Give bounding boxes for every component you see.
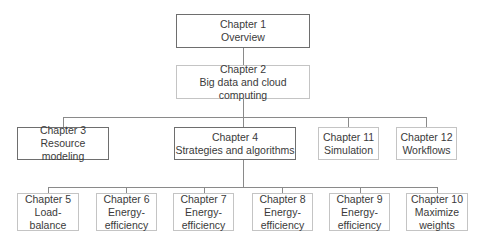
node-chapter-12: Chapter 12 Workflows — [396, 127, 457, 160]
node-chapter-5: Chapter 5 Load- balance — [17, 193, 79, 231]
node-title: Chapter 10 — [411, 193, 463, 206]
node-label-line-1: Energy- — [341, 206, 378, 219]
node-label-line-2: balance — [30, 219, 67, 232]
node-title: Chapter 5 — [25, 193, 71, 206]
node-chapter-6: Chapter 6 Energy- efficiency — [96, 193, 157, 231]
node-title: Chapter 1 — [220, 18, 266, 31]
connector-ch4-down — [243, 160, 244, 187]
node-chapter-7: Chapter 7 Energy- efficiency — [173, 193, 234, 231]
node-chapter-2: Chapter 2 Big data and cloud computing — [176, 65, 310, 99]
node-title: Chapter 6 — [103, 193, 149, 206]
node-title: Chapter 11 — [323, 131, 374, 144]
node-label: Workflows — [402, 144, 450, 157]
node-title: Chapter 7 — [180, 193, 226, 206]
connector-level3-bar — [48, 187, 438, 188]
node-chapter-8: Chapter 8 Energy- efficiency — [252, 193, 313, 231]
connector-ch2-down — [243, 99, 244, 117]
node-label-line-2: efficiency — [338, 219, 382, 232]
node-label-line-1: Energy- — [108, 206, 145, 219]
node-title: Chapter 9 — [336, 193, 382, 206]
node-label-line-1: Maximize — [415, 206, 459, 219]
node-label-line-2: weights — [419, 219, 455, 232]
connector-to-ch4 — [243, 117, 244, 127]
node-chapter-4: Chapter 4 Strategies and algorithms — [174, 127, 296, 160]
node-label: Big data and cloud computing — [177, 76, 309, 102]
connector-level2-bar — [63, 117, 427, 118]
node-label: Overview — [221, 31, 265, 44]
node-title: Chapter 4 — [212, 131, 258, 144]
node-label-line-1: Energy- — [185, 206, 222, 219]
node-title: Chapter 12 — [401, 131, 453, 144]
node-chapter-9: Chapter 9 Energy- efficiency — [329, 193, 390, 231]
node-title: Chapter 2 — [220, 63, 266, 76]
node-label: Simulation — [324, 144, 373, 157]
node-chapter-1: Chapter 1 Overview — [176, 14, 310, 48]
node-label-line-2: efficiency — [182, 219, 226, 232]
node-label-line-1: Load- — [35, 206, 62, 219]
node-label-line-2: efficiency — [105, 219, 149, 232]
node-label: Resource modeling — [18, 137, 108, 163]
connector-to-ch11 — [348, 117, 349, 127]
node-label: Strategies and algorithms — [175, 144, 294, 157]
node-label-line-1: Energy- — [264, 206, 301, 219]
node-chapter-11: Chapter 11 Simulation — [318, 127, 379, 160]
node-chapter-10: Chapter 10 Maximize weights — [406, 193, 468, 231]
chapter-structure-diagram: Chapter 1 Overview Chapter 2 Big data an… — [0, 0, 483, 248]
node-label-line-2: efficiency — [261, 219, 305, 232]
connector-to-ch12 — [426, 117, 427, 127]
node-title: Chapter 3 — [40, 124, 86, 137]
node-title: Chapter 8 — [259, 193, 305, 206]
node-chapter-3: Chapter 3 Resource modeling — [17, 127, 109, 160]
